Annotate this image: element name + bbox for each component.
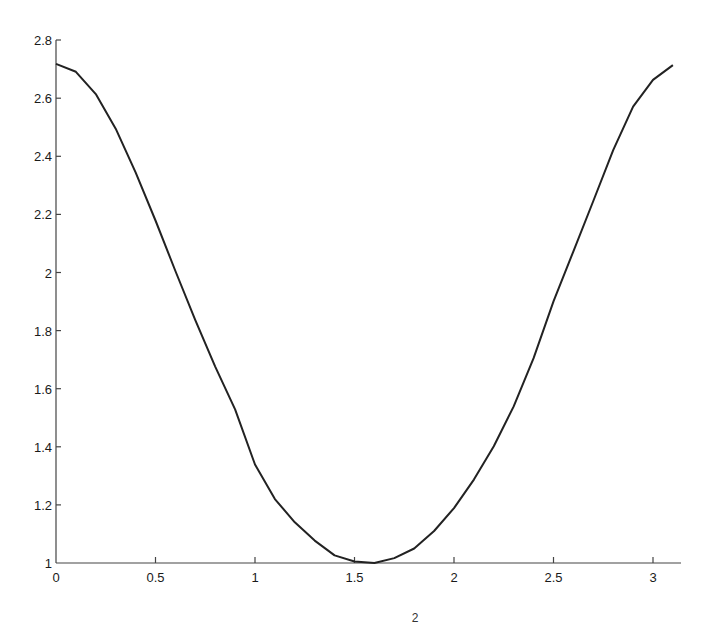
y-tick-label: 1.6 bbox=[34, 382, 52, 397]
data-series-line bbox=[56, 64, 673, 563]
y-tick-label: 1.2 bbox=[34, 498, 52, 513]
y-tick-label: 1.8 bbox=[34, 324, 52, 339]
x-axis-label-fragment: 2 bbox=[405, 612, 425, 625]
x-tick-label: 0 bbox=[52, 570, 59, 585]
y-ticks: 11.21.41.61.822.22.42.62.8 bbox=[34, 33, 61, 571]
x-tick-label: 1 bbox=[251, 570, 258, 585]
y-tick-label: 1.4 bbox=[34, 440, 52, 455]
y-tick-label: 2.8 bbox=[34, 33, 52, 48]
y-tick-label: 2.4 bbox=[34, 149, 52, 164]
x-tick-label: 3 bbox=[649, 570, 656, 585]
x-tick-label: 2 bbox=[450, 570, 457, 585]
axes bbox=[56, 40, 681, 563]
y-tick-label: 1 bbox=[45, 556, 52, 571]
x-tick-label: 1.5 bbox=[345, 570, 363, 585]
y-tick-label: 2 bbox=[45, 266, 52, 281]
y-tick-label: 2.6 bbox=[34, 91, 52, 106]
x-tick-label: 0.5 bbox=[146, 570, 164, 585]
line-chart: 11.21.41.61.822.22.42.62.8 00.511.522.53 bbox=[0, 0, 710, 625]
y-tick-label: 2.2 bbox=[34, 207, 52, 222]
x-tick-label: 2.5 bbox=[544, 570, 562, 585]
